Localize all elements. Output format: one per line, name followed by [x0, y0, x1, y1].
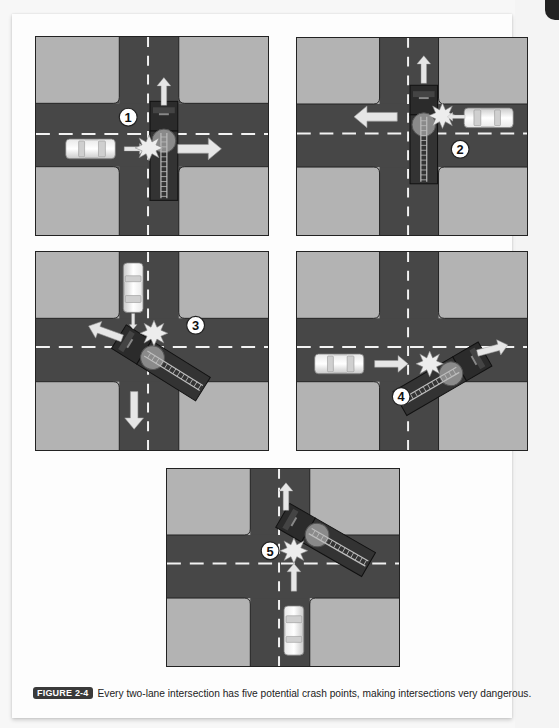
intersection-panel-4: 4: [296, 251, 528, 451]
intersection-panel-3: 3: [35, 251, 269, 451]
figure-caption-text: Every two-lane intersection has five pot…: [98, 688, 532, 699]
figure-caption: FIGURE 2-4 Every two-lane intersection h…: [33, 687, 533, 699]
intersection-panel-5: 5: [166, 468, 400, 667]
crash-point-number-4: 4: [398, 389, 406, 404]
crash-point-number-3: 3: [192, 318, 199, 333]
intersection-panel-2: 2: [296, 37, 528, 236]
crash-point-number-2: 2: [457, 142, 464, 157]
page-corner-mark: [545, 0, 559, 20]
crash-point-number-1: 1: [125, 110, 132, 125]
crash-point-number-5: 5: [267, 544, 274, 559]
figure-label-badge: FIGURE 2-4: [33, 687, 93, 699]
intersection-panel-1: 1: [35, 36, 269, 236]
